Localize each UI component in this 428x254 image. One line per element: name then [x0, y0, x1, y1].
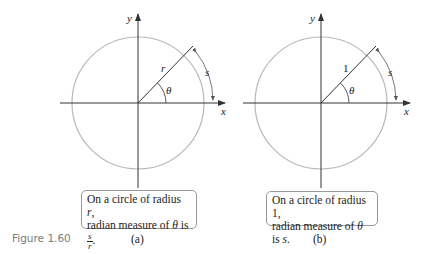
angle-label-a: θ [166, 84, 172, 96]
x-axis-label-a: x [220, 105, 226, 117]
panel-label-b: (b) [313, 233, 326, 245]
radius-label-a: r [161, 62, 166, 74]
caption-box-b: On a circle of radius 1, radian measure … [266, 191, 378, 226]
caption-a-line1: On a circle of radius r, [87, 193, 191, 219]
y-axis-label-a: y [126, 12, 132, 24]
panel-label-a: (a) [131, 233, 144, 245]
caption-b-line1: On a circle of radius 1, [272, 194, 372, 220]
x-axis-label-b: x [403, 105, 409, 117]
panel-b-diagram: y x 1 θ s [243, 12, 410, 188]
panel-a-diagram: y x r θ s [60, 12, 226, 188]
figure-number: Figure 1.60 [12, 232, 71, 244]
arc-label-b: s [388, 66, 392, 78]
caption-box-a: On a circle of radius r, radian measure … [81, 190, 197, 229]
y-axis-label-b: y [309, 12, 315, 24]
radius-label-b: 1 [343, 62, 349, 74]
angle-label-b: θ [349, 84, 355, 96]
arc-label-a: s [205, 66, 209, 78]
angle-arc-b [341, 83, 350, 103]
angle-arc-a [158, 83, 167, 103]
